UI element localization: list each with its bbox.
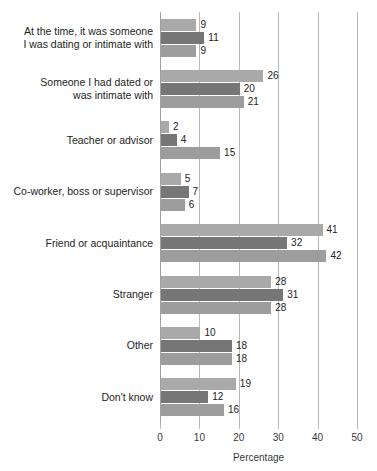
- bar-value-tgqn-2: 15: [224, 147, 235, 159]
- bar-value-female-4: 32: [291, 237, 302, 249]
- bar-male-6[interactable]: [161, 327, 200, 339]
- bar-tgqn-1[interactable]: [161, 96, 244, 108]
- bar-male-1[interactable]: [161, 70, 263, 82]
- tick-20: [239, 423, 240, 429]
- category-label-line: Co-worker, boss or supervisor: [0, 185, 153, 198]
- bar-value-tgqn-5: 28: [275, 302, 286, 314]
- bar-female-5[interactable]: [161, 289, 283, 301]
- gridline-50: [357, 12, 358, 423]
- tick-label-40: 40: [312, 432, 323, 443]
- bar-value-tgqn-4: 42: [330, 250, 341, 262]
- bar-value-female-6: 18: [236, 340, 247, 352]
- bar-value-female-5: 31: [287, 289, 298, 301]
- category-label-5: Stranger: [0, 288, 153, 301]
- bar-value-male-4: 41: [327, 224, 338, 236]
- bar-male-3[interactable]: [161, 173, 181, 185]
- bar-value-male-1: 26: [267, 70, 278, 82]
- bar-male-0[interactable]: [161, 19, 196, 31]
- bar-male-2[interactable]: [161, 121, 169, 133]
- bar-value-male-2: 2: [173, 121, 179, 133]
- category-label-line: Someone I had dated or: [0, 76, 153, 89]
- bar-tgqn-7[interactable]: [161, 404, 224, 416]
- category-label-1: Someone I had dated orwas intimate with: [0, 76, 153, 102]
- bar-female-0[interactable]: [161, 32, 204, 44]
- bar-male-7[interactable]: [161, 378, 236, 390]
- category-label-line: was intimate with: [0, 89, 153, 102]
- tick-50: [357, 423, 358, 429]
- category-label-2: Teacher or advisor: [0, 134, 153, 147]
- tick-label-0: 0: [157, 432, 163, 443]
- bar-female-7[interactable]: [161, 391, 208, 403]
- category-label-0: At the time, it was someoneI was dating …: [0, 25, 153, 51]
- category-label-line: Other: [0, 339, 153, 352]
- gridline-40: [318, 12, 319, 423]
- category-label-6: Other: [0, 339, 153, 352]
- tick-label-50: 50: [351, 432, 362, 443]
- tick-label-10: 10: [194, 432, 205, 443]
- bar-tgqn-0[interactable]: [161, 45, 196, 57]
- bar-female-2[interactable]: [161, 134, 177, 146]
- tick-40: [318, 423, 319, 429]
- bar-tgqn-5[interactable]: [161, 302, 271, 314]
- bar-value-tgqn-6: 18: [236, 353, 247, 365]
- bar-value-female-1: 20: [244, 83, 255, 95]
- bar-female-1[interactable]: [161, 83, 240, 95]
- bar-value-tgqn-0: 9: [200, 45, 206, 57]
- bar-value-male-3: 5: [185, 173, 191, 185]
- bar-value-male-0: 9: [200, 19, 206, 31]
- tick-label-30: 30: [273, 432, 284, 443]
- tick-30: [278, 423, 279, 429]
- bar-female-6[interactable]: [161, 340, 232, 352]
- bar-tgqn-3[interactable]: [161, 199, 185, 211]
- tick-0: [160, 423, 161, 429]
- bar-tgqn-4[interactable]: [161, 250, 326, 262]
- bar-value-male-7: 19: [240, 378, 251, 390]
- bar-value-female-3: 7: [193, 186, 199, 198]
- tick-10: [199, 423, 200, 429]
- category-label-line: I was dating or intimate with: [0, 38, 153, 51]
- x-axis-title: Percentage: [160, 452, 357, 463]
- bar-female-3[interactable]: [161, 186, 189, 198]
- bar-value-tgqn-7: 16: [228, 404, 239, 416]
- category-label-line: Teacher or advisor: [0, 134, 153, 147]
- bar-chart: At the time, it was someoneI was dating …: [0, 0, 377, 471]
- category-label-line: Don't know: [0, 391, 153, 404]
- bar-male-5[interactable]: [161, 276, 271, 288]
- category-label-line: At the time, it was someone: [0, 25, 153, 38]
- category-label-line: Stranger: [0, 288, 153, 301]
- bar-tgqn-2[interactable]: [161, 147, 220, 159]
- bar-female-4[interactable]: [161, 237, 287, 249]
- bar-tgqn-6[interactable]: [161, 353, 232, 365]
- bar-value-female-7: 12: [212, 391, 223, 403]
- bar-value-female-2: 4: [181, 134, 187, 146]
- plot-area: 01020304050 9119262021241557641324228312…: [160, 12, 357, 423]
- bar-value-male-6: 10: [204, 327, 215, 339]
- category-label-7: Don't know: [0, 391, 153, 404]
- category-label-4: Friend or acquaintance: [0, 237, 153, 250]
- bar-value-tgqn-3: 6: [189, 199, 195, 211]
- category-label-3: Co-worker, boss or supervisor: [0, 185, 153, 198]
- bar-male-4[interactable]: [161, 224, 323, 236]
- bar-value-male-5: 28: [275, 276, 286, 288]
- category-label-line: Friend or acquaintance: [0, 237, 153, 250]
- tick-label-20: 20: [233, 432, 244, 443]
- bar-value-tgqn-1: 21: [248, 96, 259, 108]
- bar-value-female-0: 11: [208, 32, 218, 44]
